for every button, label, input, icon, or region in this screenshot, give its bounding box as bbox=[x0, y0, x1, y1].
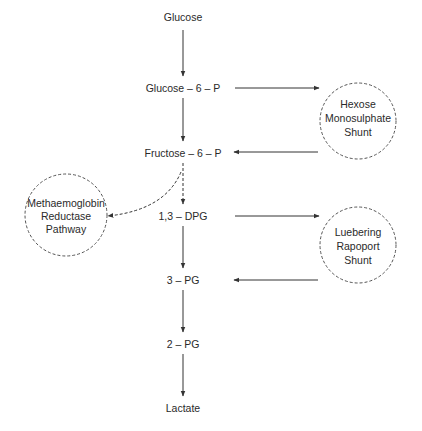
methaemoglobin-line-3: Pathway bbox=[46, 223, 87, 235]
node-2-pg: 2 – PG bbox=[167, 338, 200, 350]
glycolysis-diagram: Glucose Glucose – 6 – P Fructose – 6 – P… bbox=[0, 0, 422, 431]
hexose-line-1: Hexose bbox=[340, 98, 376, 110]
node-1-3-dpg: 1,3 – DPG bbox=[158, 210, 207, 222]
methaemoglobin-line-2: Reductase bbox=[41, 210, 91, 222]
luebering-line-3: Shunt bbox=[344, 254, 372, 266]
luebering-line-2: Rapoport bbox=[336, 240, 379, 252]
luebering-line-1: Luebering bbox=[335, 226, 382, 238]
methaemoglobin-reductase-pathway: Methaemoglobin Reductase Pathway bbox=[25, 174, 107, 256]
hexose-line-3: Shunt bbox=[344, 126, 372, 138]
node-fructose-6-p: Fructose – 6 – P bbox=[144, 147, 221, 159]
methaemoglobin-line-1: Methaemoglobin bbox=[27, 197, 105, 209]
node-3-pg: 3 – PG bbox=[167, 274, 200, 286]
luebering-rapoport-shunt: Luebering Rapoport Shunt bbox=[320, 207, 396, 283]
hexose-monosulphate-shunt: Hexose Monosulphate Shunt bbox=[320, 83, 396, 159]
node-lactate: Lactate bbox=[166, 402, 201, 414]
hexose-line-2: Monosulphate bbox=[325, 112, 391, 124]
node-glucose-6-p: Glucose – 6 – P bbox=[146, 82, 221, 94]
node-glucose: Glucose bbox=[164, 11, 203, 23]
